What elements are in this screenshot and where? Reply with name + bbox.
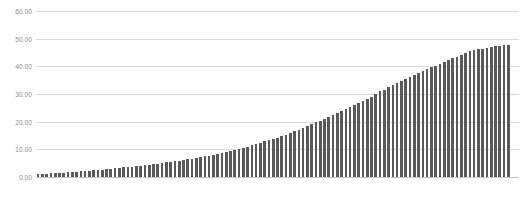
bar xyxy=(498,46,501,177)
bar xyxy=(255,144,258,177)
bar xyxy=(212,155,215,177)
y-axis-tick-label: 60.00 xyxy=(15,8,32,15)
bar xyxy=(443,62,446,177)
bar xyxy=(383,90,386,177)
bar xyxy=(186,159,189,177)
bar xyxy=(387,87,390,177)
bar xyxy=(135,166,138,177)
bar xyxy=(114,168,117,177)
bar xyxy=(139,166,142,177)
bar xyxy=(216,154,219,177)
bar xyxy=(156,164,159,178)
bar xyxy=(148,165,151,177)
bar xyxy=(178,161,181,177)
bar xyxy=(456,57,459,177)
bar xyxy=(285,135,288,177)
bar xyxy=(161,163,164,177)
bar xyxy=(464,53,467,177)
bar xyxy=(97,170,100,177)
bar xyxy=(41,174,44,177)
bar xyxy=(379,91,382,177)
bar xyxy=(50,173,53,177)
bar xyxy=(276,138,279,178)
bar xyxy=(238,149,241,177)
bar xyxy=(208,156,211,177)
bar xyxy=(332,115,335,177)
bar xyxy=(430,67,433,177)
bar xyxy=(88,171,91,177)
bar xyxy=(182,160,185,177)
bar xyxy=(62,173,65,177)
bar xyxy=(67,172,70,177)
bar xyxy=(366,99,369,177)
bar xyxy=(319,121,322,177)
bar xyxy=(460,55,463,177)
bar xyxy=(439,64,442,177)
y-axis-tick-label: 0.00 xyxy=(19,174,32,181)
bar xyxy=(225,152,228,177)
bar xyxy=(122,167,125,177)
bar xyxy=(80,171,83,177)
bar xyxy=(105,169,108,177)
bar xyxy=(263,141,266,177)
bar xyxy=(37,174,40,177)
bar xyxy=(507,45,510,177)
bar xyxy=(434,66,437,177)
bar xyxy=(473,50,476,177)
bar xyxy=(477,49,480,177)
bar xyxy=(298,130,301,177)
bar xyxy=(289,133,292,177)
bar xyxy=(422,71,425,177)
bar xyxy=(152,164,155,177)
bar xyxy=(127,167,130,177)
y-axis-tick-label: 40.00 xyxy=(15,63,32,70)
bar xyxy=(417,73,420,177)
bar xyxy=(71,172,74,177)
bar xyxy=(229,151,232,177)
bar xyxy=(242,148,245,177)
bar xyxy=(174,161,177,177)
bar xyxy=(75,172,78,177)
bar xyxy=(370,97,373,177)
bar xyxy=(246,147,249,177)
bar xyxy=(400,81,403,177)
bar xyxy=(144,165,147,177)
bar xyxy=(45,174,48,177)
bar xyxy=(327,117,330,177)
bar xyxy=(413,75,416,177)
bar xyxy=(323,119,326,177)
bar-chart: 0.0010.0020.0030.0040.0050.0060.00 xyxy=(0,0,523,221)
bar xyxy=(451,58,454,177)
bar xyxy=(272,139,275,177)
y-axis-tick-label: 20.00 xyxy=(15,118,32,125)
bar xyxy=(191,159,194,177)
bar xyxy=(84,171,87,177)
bar xyxy=(353,105,356,177)
y-axis-labels: 0.0010.0020.0030.0040.0050.0060.00 xyxy=(0,11,32,177)
bar xyxy=(302,128,305,177)
bar xyxy=(195,158,198,177)
bar xyxy=(199,157,202,177)
y-axis-tick-label: 10.00 xyxy=(15,146,32,153)
bar xyxy=(221,153,224,177)
bar xyxy=(340,111,343,177)
bar xyxy=(426,69,429,177)
bar xyxy=(101,170,104,177)
bar xyxy=(315,122,318,177)
bar xyxy=(58,173,61,177)
bar xyxy=(409,77,412,177)
bar xyxy=(259,143,262,177)
bar xyxy=(131,167,134,177)
bar xyxy=(204,156,207,177)
bar xyxy=(490,47,493,177)
bar xyxy=(396,83,399,177)
bar-series xyxy=(36,11,519,177)
bar xyxy=(109,169,112,177)
bar xyxy=(362,101,365,177)
bar xyxy=(404,79,407,177)
bar xyxy=(268,140,271,177)
y-axis-tick-label: 50.00 xyxy=(15,35,32,42)
bar xyxy=(54,173,57,177)
bar xyxy=(345,109,348,177)
bar xyxy=(336,113,339,177)
